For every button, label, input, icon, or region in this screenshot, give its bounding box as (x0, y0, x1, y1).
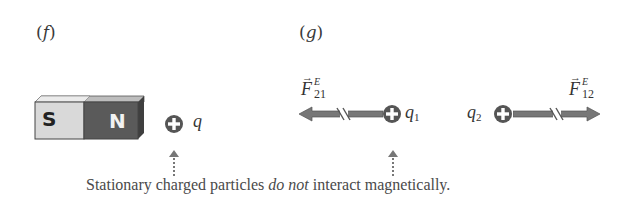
caption-text: interact magnetically. (309, 176, 451, 193)
force-f12-label: → F E 12 (569, 80, 599, 104)
panel-label-g: (g) (299, 22, 323, 42)
caption-emphasis: do not (268, 176, 308, 193)
south-pole-label: S (42, 107, 56, 131)
force-subscript: 12 (582, 88, 594, 100)
positive-charge-icon (164, 114, 184, 134)
vector-arrow-icon: → (302, 72, 313, 83)
positive-charge-q1-icon (382, 104, 402, 124)
left-arrow-icon (299, 106, 383, 122)
caption-text: Stationary charged particles (86, 176, 268, 193)
force-subscript: 21 (314, 88, 326, 100)
vector-arrow-icon: → (570, 72, 581, 83)
charge-subscript: 1 (414, 111, 420, 123)
paren-close: ) (49, 22, 56, 42)
charge-q2-label: q2 (467, 102, 482, 123)
positive-charge-q2-icon (493, 104, 513, 124)
charge-q-label: q (193, 111, 202, 132)
paren-close: ) (317, 22, 324, 42)
charge-q1-label: q1 (405, 102, 420, 123)
paren-open: ( (299, 22, 306, 42)
north-pole-label: N (109, 109, 126, 133)
force-arrow-right (513, 106, 600, 126)
bar-magnet: S N (34, 93, 146, 143)
charge-symbol: q (467, 102, 476, 122)
charge-symbol: q (405, 102, 414, 122)
force-superscript: E (314, 77, 320, 87)
force-f21-label: → F E 21 (301, 80, 331, 104)
paren-open: ( (36, 22, 43, 42)
panel-letter-g: g (306, 22, 317, 42)
right-arrow-icon (513, 106, 600, 122)
force-arrow-left (299, 106, 383, 126)
charge-subscript: 2 (476, 111, 482, 123)
force-superscript: E (582, 77, 588, 87)
panel-label-f: (f) (36, 22, 56, 42)
caption: Stationary charged particles do not inte… (86, 176, 450, 194)
